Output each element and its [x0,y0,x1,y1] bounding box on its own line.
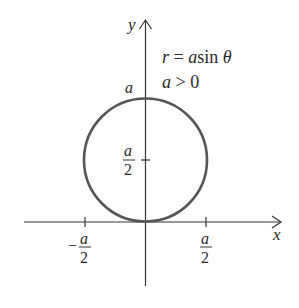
x-pos-numerator: a [201,230,209,247]
y-axis-label: y [126,15,136,34]
y-mid-numerator: a [124,142,132,159]
x-pos-denominator: 2 [201,249,209,266]
y-mid-denominator: 2 [124,161,132,178]
x-neg-denominator: 2 [80,249,88,266]
top-intercept-label: a [125,79,133,96]
x-neg-numerator: a [80,230,88,247]
x-neg-sign: − [68,237,77,254]
condition-label: a > 0 [162,72,199,92]
x-axis-label: x [272,225,281,244]
equation-label: r = asin θ [162,47,232,67]
polar-graph: y x r = asin θ a > 0 a a 2 − a 2 a 2 [0,0,299,308]
